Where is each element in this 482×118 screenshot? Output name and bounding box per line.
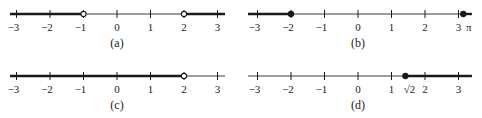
number-line-panel-c: −3−2−10123(c)	[8, 72, 225, 112]
panel-caption: (a)	[110, 36, 123, 50]
tick-label: −3	[249, 21, 261, 33]
tick-label: 1	[148, 21, 154, 33]
open-endpoint-circle	[181, 11, 186, 16]
tick-label: −2	[41, 21, 53, 33]
tick-label: 1	[389, 83, 395, 95]
tick-label: −1	[316, 83, 328, 95]
tick-label: −1	[75, 21, 87, 33]
tick-label: 0	[355, 21, 361, 33]
tick-label: 3	[215, 21, 221, 33]
panel-caption: (d)	[351, 98, 365, 112]
tick-label: −2	[41, 83, 53, 95]
panel-caption: (b)	[351, 36, 365, 50]
tick-label: −3	[249, 83, 261, 95]
tick-label: −1	[316, 21, 328, 33]
tick-label: −2	[282, 21, 294, 33]
closed-endpoint-dot	[288, 11, 293, 16]
number-line-panel-a: −3−2−10123(a)	[8, 10, 225, 50]
panel-caption: (c)	[110, 98, 123, 112]
tick-label: 3	[215, 83, 221, 95]
tick-label: 2	[422, 21, 428, 33]
tick-label: 0	[114, 21, 120, 33]
tick-label: 1	[148, 83, 154, 95]
closed-endpoint-dot	[461, 11, 466, 16]
tick-label: −1	[75, 83, 87, 95]
tick-label: −2	[282, 83, 294, 95]
tick-label: 0	[355, 83, 361, 95]
number-line-panel-b: −3−2−10123π(b)	[248, 10, 472, 50]
number-line-panel-d: −3−2−10123√2(d)	[248, 72, 472, 112]
tick-label: −3	[8, 21, 20, 33]
tick-label: 2	[181, 83, 187, 95]
closed-endpoint-dot	[403, 73, 408, 78]
point-label: π	[466, 21, 472, 33]
number-line-figure: −3−2−10123(a)−3−2−10123π(b)−3−2−10123(c)…	[0, 0, 482, 118]
open-endpoint-circle	[81, 11, 86, 16]
point-label: √2	[404, 83, 416, 95]
tick-label: 0	[114, 83, 120, 95]
tick-label: 2	[422, 83, 428, 95]
tick-label: 1	[389, 21, 395, 33]
open-endpoint-circle	[181, 73, 186, 78]
tick-label: 2	[181, 21, 187, 33]
tick-label: −3	[8, 83, 20, 95]
tick-label: 3	[456, 21, 462, 33]
tick-label: 3	[456, 83, 462, 95]
